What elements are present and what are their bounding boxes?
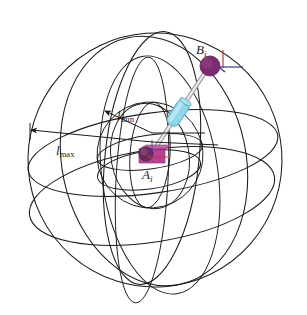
label-length-min-sub: min — [121, 114, 135, 124]
label-point-b-var: B — [196, 42, 204, 57]
figure-container: Bi Ai lmin lmax — [0, 0, 307, 315]
extended-meridian-right — [86, 48, 234, 302]
extended-meridian-rings — [86, 48, 234, 304]
node-a — [139, 140, 171, 163]
sphere-b-shading — [202, 58, 213, 69]
label-point-a-var: A — [142, 167, 150, 182]
axis-y-b-icon — [219, 67, 225, 72]
sphere-diagram-svg — [0, 0, 307, 315]
joint-sphere-a-shading — [140, 148, 147, 155]
label-length-max-sub: max — [60, 149, 75, 159]
lmax-leader — [31, 130, 152, 142]
label-length-min: lmin — [117, 107, 134, 124]
label-point-a: Ai — [142, 166, 152, 184]
label-point-b: Bi — [196, 41, 206, 59]
label-length-max: lmax — [56, 142, 75, 159]
label-point-b-sub: i — [204, 49, 207, 59]
label-point-a-sub: i — [150, 174, 153, 184]
lmax-baseline — [152, 142, 218, 145]
